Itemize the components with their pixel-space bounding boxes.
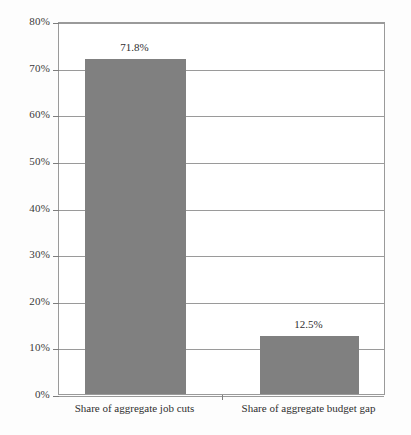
- y-axis-tick: [53, 23, 59, 24]
- x-axis-category-label: Share of aggregate job cuts: [35, 402, 235, 414]
- y-axis-tick-label: 10%: [6, 342, 50, 353]
- bar-value-label: 12.5%: [259, 319, 358, 330]
- y-axis-tick-label: 0%: [6, 389, 50, 400]
- y-axis-tick-label: 20%: [6, 296, 50, 307]
- y-axis-tick-label: 30%: [6, 249, 50, 260]
- y-axis-tick: [53, 349, 59, 350]
- y-axis-tick: [53, 256, 59, 257]
- y-axis-tick-label: 80%: [6, 16, 50, 27]
- y-axis-tick-label: 60%: [6, 109, 50, 120]
- bar: [85, 59, 186, 394]
- y-axis-tick-label: 70%: [6, 63, 50, 74]
- bar-value-label: 71.8%: [84, 42, 185, 53]
- y-axis-tick: [53, 70, 59, 71]
- y-axis-tick: [53, 210, 59, 211]
- x-axis-tick: [222, 395, 223, 400]
- y-axis-tick-label: 50%: [6, 156, 50, 167]
- bar-chart-figure: 80%70%60%50%40%30%20%10%0% Share of aggr…: [0, 0, 411, 435]
- y-axis-tick: [53, 163, 59, 164]
- x-axis-category-label: Share of aggregate budget gap: [209, 402, 409, 414]
- y-axis-tick: [53, 116, 59, 117]
- y-axis-tick-label: 40%: [6, 203, 50, 214]
- gridline: [59, 23, 384, 24]
- y-axis-tick: [53, 303, 59, 304]
- y-axis-tick: [53, 396, 59, 397]
- plot-area: [58, 22, 385, 395]
- bar: [260, 336, 359, 394]
